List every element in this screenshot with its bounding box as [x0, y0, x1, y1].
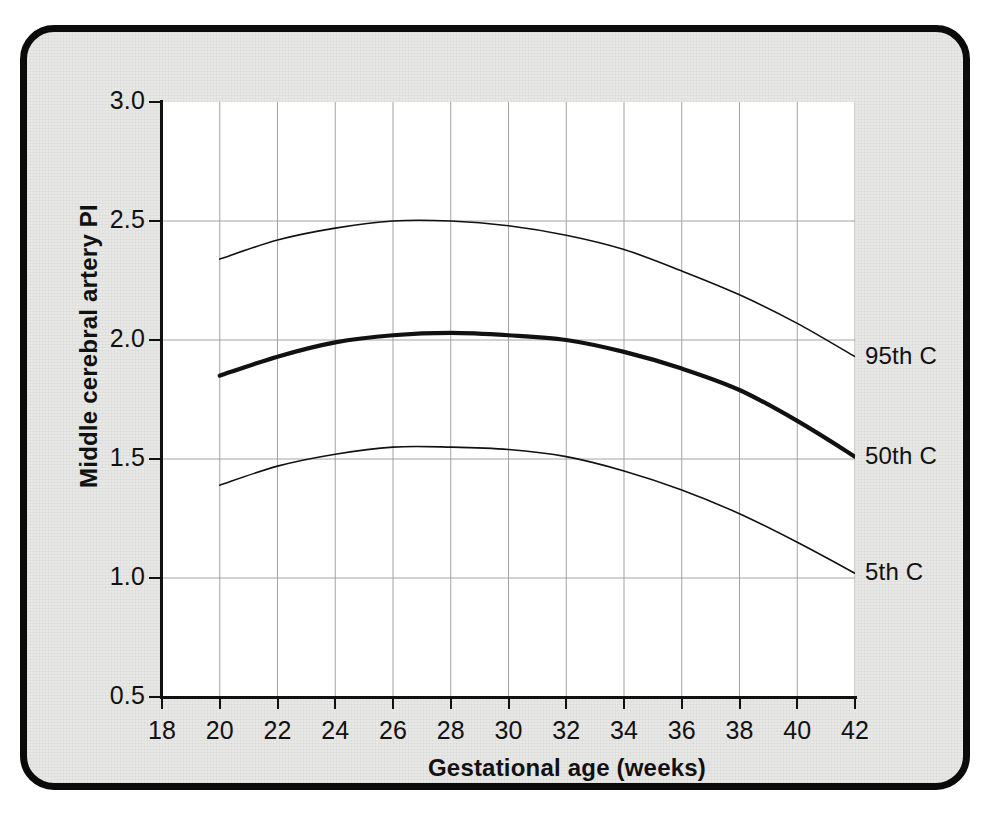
x-tick	[623, 697, 625, 709]
series-label-95th-c: 95th C	[865, 342, 937, 370]
x-tick	[277, 697, 279, 709]
x-tick	[565, 697, 567, 709]
y-tick	[149, 696, 161, 698]
y-tick	[149, 220, 161, 222]
x-tick	[219, 697, 221, 709]
x-tick	[854, 697, 856, 709]
x-tick	[334, 697, 336, 709]
x-tick	[450, 697, 452, 709]
y-tick	[149, 101, 161, 103]
x-tick	[681, 697, 683, 709]
series-label-5th-c: 5th C	[865, 558, 923, 586]
x-tick-label: 42	[815, 716, 895, 745]
series-label-50th-c: 50th C	[865, 442, 937, 470]
chart-frame: 0.51.01.52.02.53.0 182022242628303234363…	[20, 25, 970, 790]
y-tick	[149, 339, 161, 341]
x-tick	[392, 697, 394, 709]
x-tick	[739, 697, 741, 709]
x-tick	[161, 697, 163, 709]
figure-root: 0.51.01.52.02.53.0 182022242628303234363…	[0, 0, 988, 816]
x-tick	[508, 697, 510, 709]
y-tick	[149, 577, 161, 579]
y-axis-title: Middle cerebral artery PI	[75, 136, 103, 556]
x-tick	[796, 697, 798, 709]
x-axis-title: Gestational age (weeks)	[357, 754, 777, 782]
y-tick	[149, 458, 161, 460]
x-tick-labels: 18202224262830323436384042	[27, 32, 963, 783]
